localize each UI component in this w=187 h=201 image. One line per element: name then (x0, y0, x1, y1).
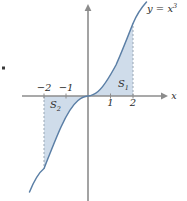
edge-artifact-mark (2, 67, 5, 70)
region-label-s1-sub: 1 (125, 84, 129, 92)
x-tick-label-1: 1 (107, 97, 113, 108)
x-tick-label-2: 2 (129, 97, 136, 108)
curve-equation-label: y = x3 (146, 2, 177, 14)
y-axis-arrowhead (85, 4, 92, 11)
x-axis-arrowhead (161, 93, 168, 100)
cubic-function-plot: −2 −1 1 2 x S1 S2 y = x3 (0, 0, 187, 201)
x-axis-label: x (171, 90, 177, 101)
region-label-s2-sub: 2 (56, 105, 61, 113)
x-tick-label-neg2: −2 (37, 82, 52, 93)
curve-equation-base: y = x (146, 3, 173, 14)
figure-canvas: −2 −1 1 2 x S1 S2 y = x3 (0, 0, 187, 201)
curve-equation-exponent: 3 (173, 2, 177, 10)
x-tick-label-neg1: −1 (59, 82, 74, 93)
